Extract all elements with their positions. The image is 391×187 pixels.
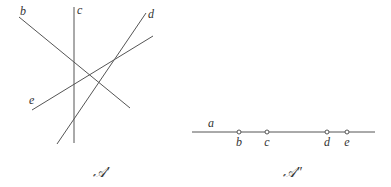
point-c: [265, 130, 269, 134]
caption-a-prime: 𝒜′: [93, 165, 110, 180]
caption-a-double-prime: 𝒜″: [283, 165, 302, 180]
point-label-d: d: [324, 135, 331, 149]
line-d: [57, 13, 146, 144]
point-label-b: b: [236, 135, 242, 149]
right-figure: a bcde 𝒜″: [192, 116, 375, 180]
line-e: [32, 36, 153, 110]
label-a: a: [208, 116, 214, 130]
point-d: [325, 130, 329, 134]
points-on-line-a: bcde: [236, 130, 350, 149]
label-d: d: [148, 7, 155, 21]
left-figure: b c d e 𝒜′: [19, 3, 155, 180]
label-b: b: [20, 4, 26, 18]
point-e: [345, 130, 349, 134]
label-c: c: [77, 3, 83, 17]
point-label-c: c: [264, 135, 270, 149]
label-e: e: [29, 93, 35, 107]
point-label-e: e: [344, 135, 350, 149]
diagram-canvas: b c d e 𝒜′ a bcde 𝒜″: [0, 0, 391, 187]
point-b: [237, 130, 241, 134]
